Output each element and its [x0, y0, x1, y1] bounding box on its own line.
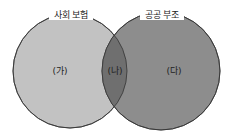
region-label-na: (나)	[107, 66, 122, 76]
region-label-ga: (가)	[52, 66, 67, 76]
venn-diagram: 사회 보험 공공 부조 (가) (나) (다)	[0, 0, 232, 135]
left-set-title: 사회 보험	[54, 10, 89, 20]
right-set-title: 공공 부조	[145, 10, 180, 20]
region-label-da: (다)	[166, 66, 181, 76]
